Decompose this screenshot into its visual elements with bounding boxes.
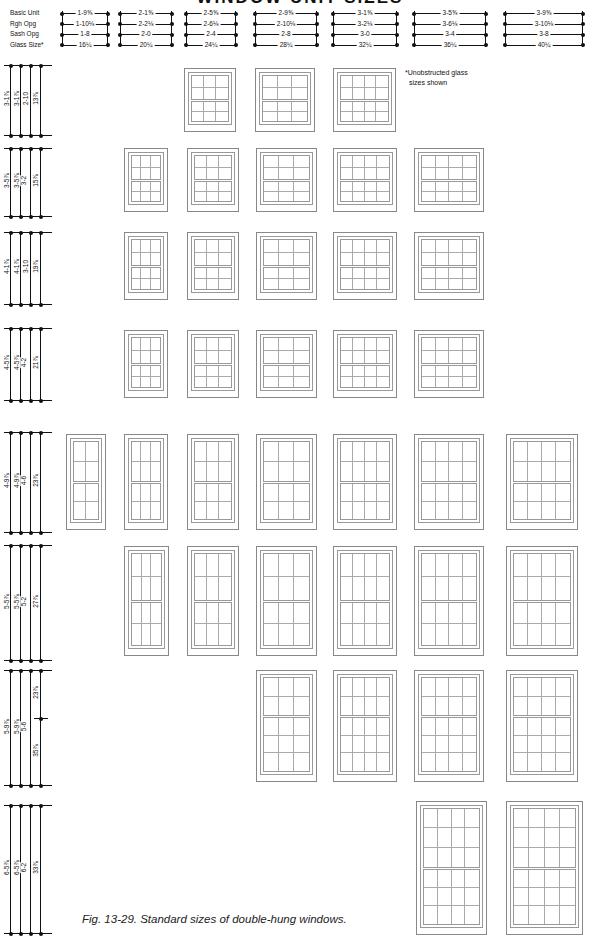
glass-pane bbox=[132, 240, 141, 253]
window-frame bbox=[337, 438, 393, 523]
footnote-line-1: *Unobstructed glass bbox=[405, 68, 468, 78]
dimension-dot bbox=[118, 43, 122, 47]
upper-sash bbox=[131, 553, 162, 601]
glass-pane bbox=[528, 554, 542, 577]
dimension-dot bbox=[234, 43, 238, 47]
glass-pane bbox=[264, 366, 279, 377]
dimension-line bbox=[20, 65, 21, 135]
dimension-line bbox=[40, 805, 41, 933]
glass-pane bbox=[132, 168, 141, 180]
glass-pane bbox=[132, 502, 141, 520]
glass-pane bbox=[219, 192, 231, 202]
upper-sash bbox=[263, 441, 310, 482]
double-hung-window bbox=[187, 232, 239, 300]
glass-pane bbox=[422, 484, 436, 502]
double-hung-window bbox=[333, 148, 397, 212]
upper-sash bbox=[513, 808, 576, 868]
glass-pane bbox=[422, 718, 436, 736]
upper-sash bbox=[340, 155, 390, 180]
lower-sash bbox=[340, 717, 390, 772]
dimension-dot bbox=[395, 12, 399, 16]
glass-pane bbox=[449, 753, 463, 771]
glass-pane bbox=[151, 182, 160, 192]
glass-pane bbox=[279, 718, 294, 736]
glass-pane bbox=[422, 603, 436, 624]
dimension-dot bbox=[331, 43, 335, 47]
glass-pane bbox=[545, 809, 560, 828]
glass-pane bbox=[452, 809, 466, 828]
glass-pane bbox=[353, 112, 365, 122]
glass-pane bbox=[219, 442, 231, 462]
glass-pane bbox=[436, 377, 450, 388]
upper-sash bbox=[131, 155, 161, 180]
dimension-dot bbox=[106, 22, 110, 26]
dimension-dot bbox=[9, 669, 13, 673]
dimension-dot bbox=[29, 784, 33, 788]
dimension-line bbox=[10, 328, 11, 400]
glass-pane bbox=[264, 603, 279, 624]
glass-pane bbox=[132, 182, 141, 192]
glass-pane bbox=[341, 156, 353, 168]
dimension-row: 2-8 bbox=[255, 29, 317, 40]
upper-sash bbox=[421, 677, 477, 716]
dimension-line bbox=[10, 805, 11, 933]
dimension-value: 3-5⅝ bbox=[441, 8, 460, 18]
dimension-dot bbox=[39, 303, 43, 307]
glass-pane bbox=[377, 156, 389, 168]
glass-pane bbox=[452, 906, 466, 924]
glass-pane bbox=[545, 848, 560, 867]
upper-sash bbox=[194, 239, 232, 266]
glass-pane bbox=[294, 603, 309, 624]
lower-sash bbox=[263, 717, 310, 772]
glass-pane bbox=[294, 156, 309, 168]
row-dimension-1: 3-1⅞3-1⅞2-1013⅞ bbox=[4, 65, 52, 135]
glass-pane bbox=[377, 168, 389, 180]
window-frame bbox=[260, 674, 313, 775]
upper-sash bbox=[191, 75, 229, 100]
glass-pane bbox=[341, 112, 353, 122]
glass-pane bbox=[151, 240, 160, 253]
dimension-dot bbox=[118, 12, 122, 16]
glass-pane bbox=[365, 253, 377, 266]
lower-sash bbox=[131, 365, 161, 388]
upper-sash bbox=[263, 677, 310, 716]
glass-pane bbox=[207, 182, 219, 192]
glass-pane bbox=[542, 624, 556, 645]
glass-pane bbox=[353, 554, 365, 577]
glass-pane bbox=[294, 338, 309, 351]
dimension-dot bbox=[9, 327, 13, 331]
double-hung-window bbox=[333, 546, 397, 656]
glass-pane bbox=[514, 603, 528, 624]
glass-pane bbox=[264, 253, 279, 266]
glass-pane bbox=[151, 268, 160, 279]
glass-pane bbox=[449, 462, 463, 482]
lower-sash bbox=[421, 483, 477, 520]
glass-pane bbox=[560, 848, 575, 867]
dimension-value: 3-8 bbox=[537, 29, 550, 39]
glass-pane bbox=[279, 462, 294, 482]
glass-pane bbox=[465, 888, 479, 906]
glass-pane bbox=[365, 192, 377, 202]
window-frame bbox=[191, 152, 235, 205]
window-frame bbox=[418, 236, 480, 293]
glass-pane bbox=[463, 366, 477, 377]
glass-pane bbox=[556, 554, 570, 577]
glass-pane bbox=[353, 192, 365, 202]
glass-pane bbox=[376, 88, 388, 100]
glass-pane bbox=[341, 182, 353, 192]
glass-pane bbox=[556, 502, 570, 520]
glass-pane bbox=[463, 603, 477, 624]
upper-sash bbox=[263, 337, 310, 364]
glass-pane bbox=[294, 268, 309, 279]
glass-pane bbox=[294, 366, 309, 377]
glass-pane bbox=[438, 870, 452, 888]
glass-pane bbox=[279, 577, 294, 600]
dimension-dot bbox=[19, 659, 23, 663]
glass-pane bbox=[353, 718, 365, 736]
glass-pane bbox=[279, 442, 294, 462]
double-hung-window bbox=[414, 434, 484, 530]
glass-pane bbox=[365, 624, 377, 645]
dimension-value: 3-1⅝ bbox=[356, 8, 375, 18]
lower-sash bbox=[194, 483, 232, 520]
glass-pane bbox=[219, 240, 231, 253]
